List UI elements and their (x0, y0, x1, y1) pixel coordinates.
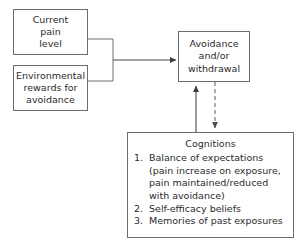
list-item-line: with avoidance) (149, 190, 287, 203)
list-item: 3. Memories of past exposures (134, 215, 287, 228)
list-item-line: Self-efficacy beliefs (149, 203, 287, 216)
cognitions-list: 1. Balance of expectations (pain increas… (134, 152, 287, 228)
node-line: avoidance (26, 94, 75, 106)
connector-inputs-to-avoidance (88, 39, 176, 81)
cognitions-title: Cognitions (134, 138, 287, 150)
node-avoidance-withdrawal: Avoidance and/or withdrawal (178, 31, 250, 82)
node-line: withdrawal (188, 63, 240, 75)
node-line: pain (40, 26, 61, 38)
list-item-line: Memories of past exposures (149, 215, 287, 228)
list-item-line: (pain increase on exposure, (149, 165, 287, 178)
list-item: 2. Self-efficacy beliefs (134, 203, 287, 216)
node-line: and/or (199, 50, 230, 62)
list-item-line: Balance of expectations (149, 152, 287, 165)
list-item: 1. Balance of expectations (pain increas… (134, 152, 287, 203)
node-environmental-rewards: Environmental rewards for avoidance (13, 65, 88, 111)
list-item-number: 3. (134, 215, 143, 228)
node-line: level (39, 38, 62, 50)
list-item-line: pain maintained/reduced (149, 177, 287, 190)
node-line: Current (33, 14, 69, 26)
node-cognitions: Cognitions 1. Balance of expectations (p… (127, 132, 294, 238)
diagram-canvas: Current pain level Environmental rewards… (0, 0, 302, 246)
node-line: Environmental (16, 70, 85, 82)
list-item-number: 2. (134, 203, 143, 216)
list-item-number: 1. (134, 152, 143, 165)
node-line: Avoidance (190, 38, 239, 50)
node-current-pain-level: Current pain level (13, 9, 88, 55)
node-line: rewards for (24, 82, 78, 94)
